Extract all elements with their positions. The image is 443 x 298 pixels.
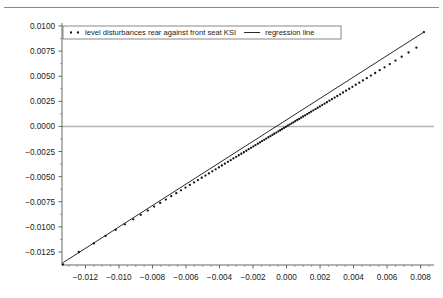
legend-label-regression: regression line — [265, 28, 314, 37]
chart-legend: level disturbances rear against front se… — [63, 26, 341, 39]
x-tick-label: −0.012 — [73, 273, 99, 282]
x-tick-labels: −0.012−0.010−0.008−0.006−0.004−0.0020.00… — [73, 273, 431, 282]
y-tick-label: −0.0025 — [25, 148, 55, 157]
legend-label-series: level disturbances rear against front se… — [85, 28, 236, 37]
y-tick-label: −0.0075 — [25, 198, 55, 207]
x-tick-label: 0.000 — [276, 273, 297, 282]
y-axis — [59, 23, 63, 265]
scatter-plot-figure: −0.012−0.010−0.008−0.006−0.004−0.0020.00… — [0, 0, 443, 298]
y-tick-label: 0.0050 — [30, 72, 55, 81]
x-tick-label: −0.006 — [173, 273, 199, 282]
x-tick-label: 0.006 — [377, 273, 398, 282]
y-tick-label: 0.0000 — [30, 122, 55, 131]
y-tick-label: −0.0125 — [25, 248, 55, 257]
x-tick-label: −0.004 — [207, 273, 233, 282]
x-tick-label: −0.010 — [106, 273, 132, 282]
x-tick-label: −0.002 — [240, 273, 266, 282]
y-tick-label: 0.0025 — [30, 97, 55, 106]
y-tick-label: 0.0100 — [30, 22, 55, 31]
y-tick-labels: −0.0125−0.0100−0.0075−0.0050−0.00250.000… — [25, 22, 55, 257]
x-tick-label: 0.004 — [343, 273, 364, 282]
plot-svg: −0.012−0.010−0.008−0.006−0.004−0.0020.00… — [0, 0, 443, 298]
y-tick-label: −0.0050 — [25, 173, 55, 182]
regression-line — [63, 32, 424, 263]
x-tick-label: −0.008 — [140, 273, 166, 282]
y-tick-label: −0.0100 — [25, 223, 55, 232]
x-axis — [62, 265, 434, 269]
x-tick-label: 0.002 — [310, 273, 331, 282]
y-tick-label: 0.0075 — [30, 47, 55, 56]
x-tick-label: 0.008 — [410, 273, 431, 282]
